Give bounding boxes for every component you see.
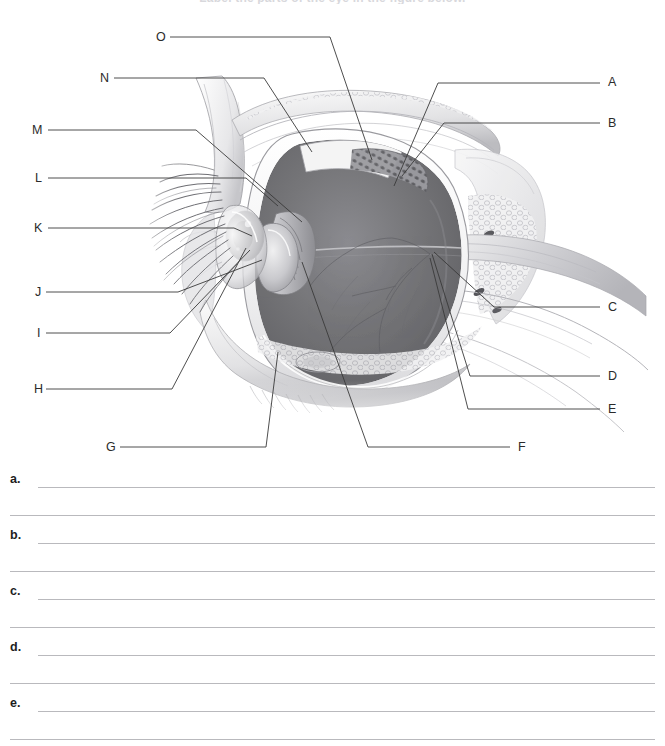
answer-rule-c-1[interactable] <box>38 599 655 600</box>
answer-block-a: a. <box>0 465 665 521</box>
figure-label-M: M <box>32 124 42 137</box>
figure-label-G: G <box>106 441 116 454</box>
figure-label-A: A <box>608 76 616 89</box>
figure-label-C: C <box>608 301 617 314</box>
answer-letter-a: a. <box>10 472 21 486</box>
eye-illustration-svg <box>0 0 665 465</box>
answer-rule-e-2[interactable] <box>10 739 655 740</box>
answer-letter-b: b. <box>10 528 21 542</box>
eye-anatomy-figure: A B C D E F G H I J K L M N O <box>0 0 665 465</box>
figure-label-N: N <box>100 72 109 85</box>
answer-block-d: d. <box>0 633 665 689</box>
answer-letter-e: e. <box>10 696 21 710</box>
figure-label-L: L <box>35 172 42 185</box>
answer-block-b: b. <box>0 521 665 577</box>
figure-label-I: I <box>37 327 40 340</box>
answer-rule-b-1[interactable] <box>38 543 655 544</box>
answer-rule-d-1[interactable] <box>38 655 655 656</box>
answer-block-c: c. <box>0 577 665 633</box>
answer-rule-e-1[interactable] <box>38 711 655 712</box>
figure-label-O: O <box>156 31 166 44</box>
answer-block-e: e. <box>0 689 665 745</box>
answer-rule-a-2[interactable] <box>10 515 655 516</box>
figure-label-F: F <box>518 441 526 454</box>
answer-rule-b-2[interactable] <box>10 571 655 572</box>
answer-letter-d: d. <box>10 640 21 654</box>
answer-rule-c-2[interactable] <box>10 627 655 628</box>
figure-label-B: B <box>608 117 616 130</box>
answer-rule-d-2[interactable] <box>10 683 655 684</box>
figure-label-E: E <box>608 403 616 416</box>
figure-label-D: D <box>608 370 617 383</box>
figure-label-H: H <box>34 383 43 396</box>
figure-label-J: J <box>35 286 41 299</box>
answer-rule-a-1[interactable] <box>38 487 655 488</box>
answer-letter-c: c. <box>10 584 21 598</box>
illustration-body <box>46 37 648 447</box>
figure-label-K: K <box>34 222 42 235</box>
answer-lines-section: a. b. c. d. e. <box>0 465 665 746</box>
